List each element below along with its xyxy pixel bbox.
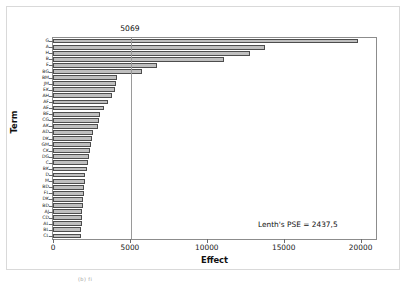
y-tick <box>49 199 53 200</box>
reference-line-label: 5069 <box>120 24 139 33</box>
bar <box>53 179 85 184</box>
y-tick-label: DK <box>42 136 49 141</box>
y-tick-label: BD <box>42 185 49 190</box>
x-axis-title: Effect <box>52 255 377 265</box>
x-tick-label: 5000 <box>120 244 139 252</box>
bar <box>53 136 92 141</box>
bar <box>53 106 104 111</box>
bar-fill <box>53 69 142 74</box>
y-tick <box>49 41 53 42</box>
y-tick <box>49 230 53 231</box>
bar <box>53 118 99 123</box>
y-tick-label: M <box>45 179 49 184</box>
bar-fill <box>53 215 82 220</box>
bar <box>53 45 265 50</box>
bar <box>53 197 83 202</box>
bar <box>53 112 100 117</box>
bar-fill <box>53 142 91 147</box>
y-tick <box>49 218 53 219</box>
bar-fill <box>53 173 85 178</box>
bar-fill <box>53 124 98 129</box>
y-tick-label: BD <box>42 203 49 208</box>
bar-fill <box>53 57 224 62</box>
y-tick-label: EK <box>43 87 49 92</box>
y-tick-label: D <box>45 173 49 178</box>
bar <box>53 130 93 135</box>
pareto-chart-figure: Term Effect GAHBEBGBMJMEKAHAFAEBECGAKADD… <box>0 0 408 294</box>
y-tick <box>49 151 53 152</box>
y-tick-label: AE <box>43 106 49 111</box>
y-tick-label: AH <box>42 94 49 99</box>
bar-fill <box>53 179 85 184</box>
y-tick-label: AF <box>43 100 49 105</box>
y-tick-label: BK <box>43 167 49 172</box>
y-tick <box>49 114 53 115</box>
bar-fill <box>53 93 112 98</box>
bar-fill <box>53 148 90 153</box>
bar <box>53 173 85 178</box>
y-tick-label: AL <box>43 221 49 226</box>
y-tick <box>49 65 53 66</box>
bar-fill <box>53 118 99 123</box>
y-tick <box>49 163 53 164</box>
y-tick-label: DK <box>42 197 49 202</box>
bar-fill <box>53 209 82 214</box>
bar <box>53 154 89 159</box>
y-tick-label: CK <box>43 148 49 153</box>
bar <box>53 87 115 92</box>
bar <box>53 203 83 208</box>
bar <box>53 209 82 214</box>
bar-fill <box>53 167 87 172</box>
y-tick <box>49 47 53 48</box>
bar <box>53 160 88 165</box>
bar <box>53 142 91 147</box>
y-axis-title: Term <box>9 110 19 133</box>
y-tick <box>49 224 53 225</box>
y-tick <box>49 175 53 176</box>
bar-fill <box>53 160 88 165</box>
y-tick <box>49 212 53 213</box>
y-tick <box>49 187 53 188</box>
y-tick <box>49 72 53 73</box>
bar <box>53 148 90 153</box>
bar <box>53 227 81 232</box>
y-tick <box>49 139 53 140</box>
y-tick-label: CD <box>42 215 49 220</box>
x-tick-label: 0 <box>51 244 56 252</box>
bar <box>53 57 224 62</box>
bar <box>53 100 108 105</box>
y-tick <box>49 78 53 79</box>
y-tick-label: FL <box>44 191 49 196</box>
y-tick <box>49 181 53 182</box>
x-tick-label: 15000 <box>272 244 296 252</box>
bar-fill <box>53 203 83 208</box>
y-tick-label: E <box>46 63 49 68</box>
bar <box>53 167 87 172</box>
y-tick-label: C <box>46 161 49 166</box>
bar <box>53 234 81 239</box>
bar-fill <box>53 81 116 86</box>
bar-fill <box>53 227 81 232</box>
y-tick <box>49 96 53 97</box>
y-tick-label: AK <box>43 124 49 129</box>
y-tick-label: BL <box>43 228 49 233</box>
y-tick <box>49 108 53 109</box>
y-tick <box>49 84 53 85</box>
y-tick <box>49 53 53 54</box>
y-tick-label: A <box>46 45 49 50</box>
y-tick-label: H <box>46 51 49 56</box>
plot-inner: GAHBEBGBMJMEKAHAFAEBECGAKADDKGMCKDGCBKDM… <box>53 38 376 239</box>
bar-fill <box>53 130 93 135</box>
y-tick-label: CG <box>42 118 49 123</box>
y-tick <box>49 126 53 127</box>
bar-fill <box>53 106 104 111</box>
bar <box>53 51 250 56</box>
y-tick <box>49 157 53 158</box>
y-tick <box>49 90 53 91</box>
x-tick-label: 10000 <box>195 244 219 252</box>
plot-area: GAHBEBGBMJMEKAHAFAEBECGAKADDKGMCKDGCBKDM… <box>52 37 377 240</box>
bar <box>53 39 358 44</box>
bar-fill <box>53 75 117 80</box>
bar <box>53 69 142 74</box>
y-tick-label: JM <box>44 81 49 86</box>
